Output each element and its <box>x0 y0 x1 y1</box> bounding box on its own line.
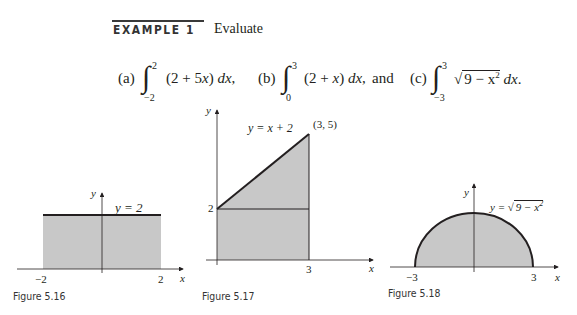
fig17-x-axis-label: x <box>369 262 374 274</box>
fig17-x-tick-3: 3 <box>306 263 312 275</box>
fig17-curve-label: y = x + 2 <box>248 121 293 136</box>
fig18-curve-label: y = √9 − x2 <box>490 199 543 213</box>
fig16-curve-label: y = 2 <box>115 200 143 216</box>
fig18-x-tick-neg3: −3 <box>406 271 418 283</box>
fig18-caption: Figure 5.18 <box>388 287 440 300</box>
fig16-y-axis-label: y <box>91 187 96 199</box>
figures-canvas <box>0 0 577 315</box>
fig17-point-label: (3, 5) <box>313 118 337 130</box>
fig18-x-axis-label: x <box>555 271 560 283</box>
figure-5-16-graph <box>17 193 183 273</box>
fig16-x-tick-2: 2 <box>158 273 164 285</box>
fig17-y-axis-label: y <box>206 104 211 116</box>
figure-5-18-graph <box>390 184 558 272</box>
fig16-x-axis-label: x <box>180 272 185 284</box>
fig16-x-tick-neg2: −2 <box>35 273 47 285</box>
fig17-y-tick-2: 2 <box>208 202 214 214</box>
fig18-y-axis-label: y <box>464 186 469 198</box>
fig16-caption: Figure 5.16 <box>13 290 65 303</box>
fig18-x-tick-3: 3 <box>531 271 537 283</box>
fig17-caption: Figure 5.17 <box>202 290 254 303</box>
